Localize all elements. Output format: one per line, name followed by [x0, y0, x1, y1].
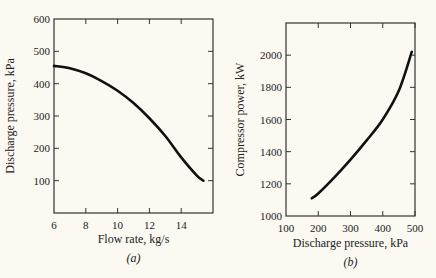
y-tick-label: 200 — [34, 142, 51, 154]
y-axis-label: Discharge pressure, kPa — [3, 58, 17, 174]
x-tick-label: 100 — [278, 222, 295, 234]
x-tick-label: 12 — [144, 219, 155, 231]
y-tick-label: 500 — [34, 45, 51, 57]
y-tick-label: 600 — [34, 13, 51, 25]
y-tick-label: 1400 — [260, 146, 283, 158]
x-tick-label: 300 — [342, 222, 359, 234]
y-tick-label: 100 — [34, 175, 51, 187]
x-tick-label: 14 — [176, 219, 188, 231]
panel-caption: (b) — [344, 255, 358, 269]
x-tick-label: 400 — [375, 222, 392, 234]
plot-frame — [54, 19, 213, 213]
panel-caption: (a) — [127, 251, 141, 265]
y-tick-label: 1000 — [260, 210, 283, 222]
x-tick-label: 8 — [83, 219, 89, 231]
figure: 68101214100200300400500600Flow rate, kg/… — [0, 0, 436, 278]
x-tick-label: 10 — [112, 219, 124, 231]
chart-panel-a: 68101214100200300400500600Flow rate, kg/… — [3, 13, 213, 265]
y-tick-label: 300 — [34, 110, 51, 122]
y-tick-label: 1200 — [260, 178, 283, 190]
data-curve — [54, 66, 203, 181]
x-tick-label: 200 — [310, 222, 327, 234]
x-axis-label: Flow rate, kg/s — [98, 232, 170, 246]
chart-panel-b: 100200300400500100012001400160018002000D… — [233, 23, 424, 269]
y-tick-label: 1600 — [260, 114, 283, 126]
y-tick-label: 400 — [34, 78, 51, 90]
y-axis-label: Compressor power, kW — [233, 62, 247, 177]
y-tick-label: 2000 — [260, 49, 283, 61]
x-tick-label: 500 — [407, 222, 424, 234]
y-tick-label: 1800 — [260, 81, 283, 93]
x-tick-label: 6 — [51, 219, 57, 231]
data-curve — [312, 52, 412, 198]
plot-frame — [286, 23, 415, 216]
x-axis-label: Discharge pressure, kPa — [293, 236, 409, 250]
